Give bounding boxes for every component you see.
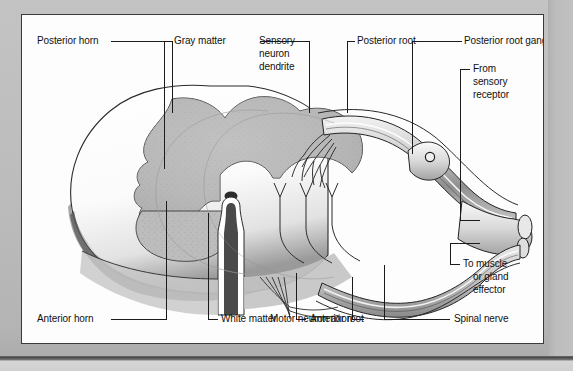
label-to-effector-line1: To muscle bbox=[463, 258, 507, 270]
spinal-nerve-cut-end bbox=[518, 215, 532, 239]
leader-from-receptor-tick bbox=[460, 69, 470, 70]
leader-white-matter-tick bbox=[208, 319, 218, 320]
anterior-median-fissure bbox=[218, 197, 244, 315]
label-gray-matter: Gray matter bbox=[174, 35, 226, 47]
leader-sensory-dendrite-v bbox=[309, 41, 310, 113]
figure-panel: Posterior horn Gray matter Sensory neuro… bbox=[21, 14, 544, 344]
label-spinal-nerve: Spinal nerve bbox=[454, 313, 508, 325]
leader-spinal-nerve-v bbox=[384, 265, 385, 320]
leader-from-receptor-h2 bbox=[460, 220, 480, 221]
posterior-root-ganglion bbox=[408, 142, 450, 180]
leader-gray-matter-v bbox=[164, 41, 165, 169]
leader-gray-matter-tick bbox=[164, 41, 172, 42]
leader-posterior-root-v bbox=[347, 41, 348, 113]
label-posterior-horn: Posterior horn bbox=[37, 35, 98, 47]
ganglion-cell-body bbox=[425, 152, 434, 161]
leader-anterior-horn-h bbox=[111, 319, 167, 320]
leader-ganglion-h bbox=[412, 41, 462, 42]
label-sensory-neuron-dendrite-line3: dendrite bbox=[259, 61, 294, 73]
page-edge-lower-strip bbox=[0, 361, 573, 371]
label-from-sensory-receptor-line1: From bbox=[473, 63, 496, 75]
scanned-page: Posterior horn Gray matter Sensory neuro… bbox=[0, 0, 573, 371]
label-white-matter: White matter bbox=[221, 313, 276, 325]
label-from-sensory-receptor-line3: receptor bbox=[473, 89, 509, 101]
leader-posterior-root-tick bbox=[347, 41, 355, 42]
label-anterior-horn: Anterior horn bbox=[37, 313, 94, 325]
leader-white-matter-v bbox=[208, 213, 209, 320]
label-sensory-neuron-dendrite-line1: Sensory bbox=[259, 35, 295, 47]
leader-anterior-horn-v bbox=[166, 201, 167, 320]
label-from-sensory-receptor-line2: sensory bbox=[473, 76, 507, 88]
label-posterior-root-ganglion: Posterior root ganglion bbox=[464, 35, 544, 47]
leader-to-effector-h2 bbox=[450, 243, 480, 244]
label-to-effector-line3: effector bbox=[473, 284, 505, 296]
label-sensory-neuron-dendrite-line2: neuron bbox=[259, 48, 290, 60]
leader-ganglion-v bbox=[412, 41, 413, 154]
label-posterior-root: Posterior root bbox=[357, 35, 416, 47]
leader-spinal-nerve-h bbox=[384, 319, 450, 320]
leader-to-effector-v bbox=[450, 243, 451, 265]
leader-posterior-horn-v bbox=[172, 41, 173, 113]
leader-from-receptor-v bbox=[460, 69, 461, 221]
page-right-margin-band bbox=[548, 0, 573, 356]
label-to-effector-line2: or gland bbox=[473, 271, 508, 283]
page-edge-rule bbox=[0, 356, 573, 360]
leader-to-effector-tick bbox=[450, 264, 460, 265]
label-anterior-root: Anterior root bbox=[310, 313, 364, 325]
